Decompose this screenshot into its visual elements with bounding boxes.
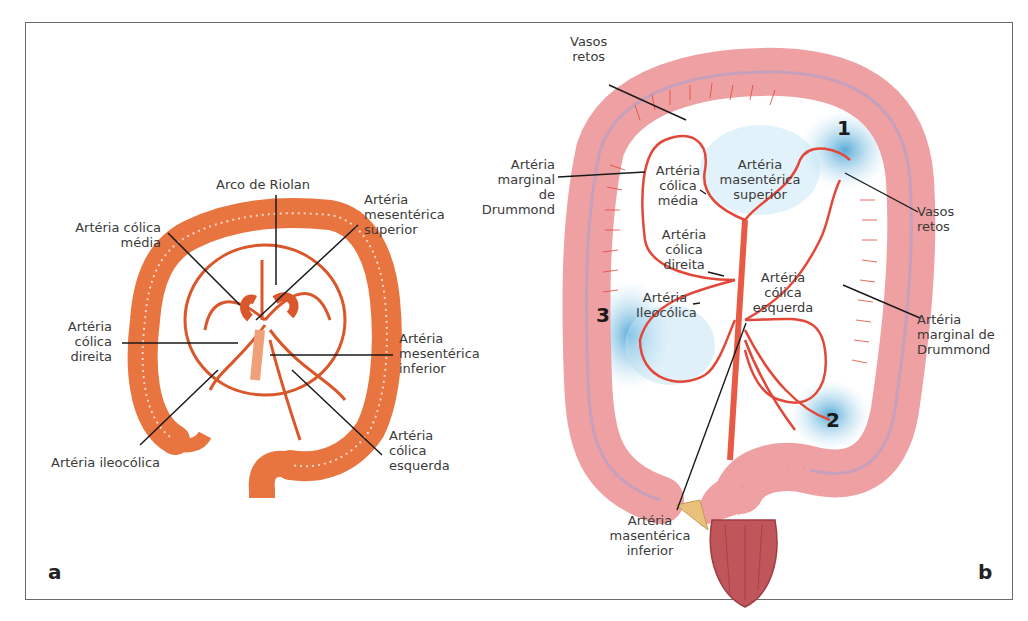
- label-b-vasos-retos-top: Vasos retos: [570, 34, 607, 64]
- label-b-arteria-colica-esquerda: Artéria cólica esquerda: [752, 270, 814, 315]
- label-arco-de-riolan: Arco de Riolan: [216, 177, 310, 192]
- label-a-arteria-colica-media: Artéria cólica média: [68, 220, 161, 250]
- label-b-arteria-ileocolica: Artéria Ileocólica: [636, 290, 694, 320]
- zone-number-3: 3: [596, 303, 610, 327]
- panel-letter-b: b: [978, 560, 992, 584]
- label-b-arteria-marginal-drummond-right: Artéria marginal de Drummond: [917, 312, 995, 357]
- label-a-arteria-colica-direita: Artéria cólica direita: [60, 319, 112, 364]
- label-a-arteria-mesenterica-superior: Artéria mesentérica superior: [364, 192, 445, 237]
- label-b-vasos-retos-right: Vasos retos: [917, 204, 954, 234]
- label-b-arteria-masenterica-inferior: Artéria masentérica inferior: [605, 513, 695, 558]
- label-b-arteria-marginal-drummond-left: Artéria marginal de Drummond: [480, 157, 555, 217]
- label-b-arteria-colica-direita: Artéria cólica direita: [658, 227, 710, 272]
- zone-number-2: 2: [826, 408, 840, 432]
- zone-number-1: 1: [837, 116, 851, 140]
- label-b-arteria-masenterica-superior: Artéria masentérica superior: [717, 157, 803, 202]
- panel-letter-a: a: [48, 560, 62, 584]
- label-a-arteria-mesenterica-inferior: Artéria mesentérica inferior: [399, 331, 480, 376]
- label-a-arteria-ileocolica: Artéria ileocólica: [51, 455, 160, 470]
- anatomy-illustration: [0, 0, 1028, 621]
- label-a-arteria-colica-esquerda: Artéria cólica esquerda: [389, 428, 450, 473]
- label-b-arteria-colica-media: Artéria cólica média: [652, 163, 704, 208]
